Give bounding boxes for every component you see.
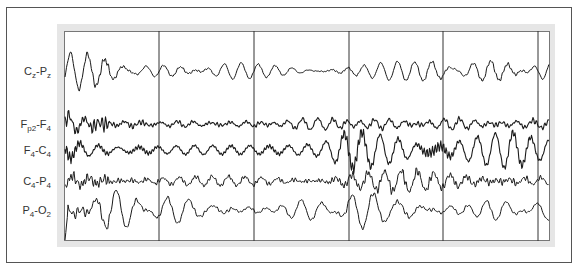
channel-label-p4-o2: P4-O2 <box>23 204 51 216</box>
channel-label-cz-pz: Cz-Pz <box>24 65 51 77</box>
eeg-trace-c4-p4 <box>65 168 549 195</box>
eeg-trace-fp2-f4 <box>65 111 549 134</box>
channel-label-c4-p4: C4-P4 <box>23 175 51 187</box>
eeg-trace-p4-o2 <box>65 190 549 240</box>
channel-label-f4-c4: F4-C4 <box>24 144 51 156</box>
eeg-trace-f4-c4 <box>65 129 549 173</box>
eeg-traces <box>64 31 550 241</box>
eeg-trace-cz-pz <box>65 52 549 91</box>
channel-label-fp2-f4: Fp2-F4 <box>21 118 51 130</box>
